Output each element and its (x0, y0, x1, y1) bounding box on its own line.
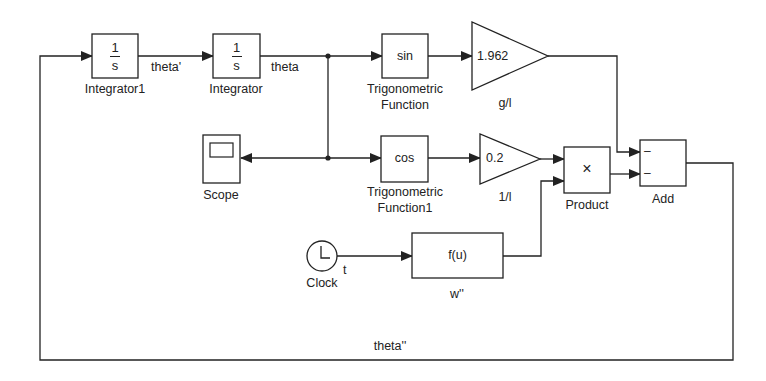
add-label: Add (633, 192, 693, 207)
fcn-label: w'' (427, 287, 487, 302)
trig-sin-label-line2: Function (355, 98, 455, 113)
signal-label-theta-double-prime: theta'' (360, 339, 420, 354)
signal-label-theta: theta (271, 60, 299, 75)
gain-g-over-l-value: 1.962 (477, 49, 508, 63)
signal-label-theta-prime: theta' (151, 60, 181, 75)
signal-gain1-out (548, 56, 640, 152)
gain-g-over-l-label: g/l (480, 96, 530, 111)
integrator-label: Integrator (191, 82, 281, 97)
integrator1-label: Integrator1 (70, 82, 160, 97)
product-multiply-icon: × (564, 162, 610, 176)
add-port2-sign: – (644, 166, 651, 180)
add-block[interactable]: – – (640, 140, 686, 186)
branch-point (325, 53, 330, 58)
trig-cos-label-line2: Function1 (355, 201, 455, 216)
gain-g-over-l-block[interactable]: 1.962 (472, 22, 548, 90)
fcn-block[interactable]: f(u) (412, 233, 503, 278)
clock-block[interactable] (307, 241, 337, 271)
gain-1-over-l-label: 1/l (485, 190, 525, 205)
branch-point (325, 155, 330, 160)
gain-1-over-l-block[interactable]: 0.2 (480, 134, 540, 184)
trig-cos-text: cos (381, 151, 428, 165)
integrator-transfer-function: 1 s (213, 41, 260, 73)
scope-block[interactable] (203, 135, 240, 183)
gain-1-over-l-value: 0.2 (486, 151, 503, 165)
integrator1-block[interactable]: 1 s (92, 34, 138, 78)
trig-cos-label-line1: Trigonometric (355, 185, 455, 200)
trig-cos-block[interactable]: cos (381, 136, 428, 182)
clock-icon (317, 246, 329, 258)
scope-icon (210, 143, 233, 157)
product-block[interactable]: × (564, 147, 610, 193)
product-label: Product (552, 198, 622, 213)
trig-sin-label-line1: Trigonometric (355, 82, 455, 97)
integrator-block[interactable]: 1 s (213, 34, 260, 78)
clock-label: Clock (292, 276, 352, 291)
integrator1-transfer-function: 1 s (92, 41, 138, 73)
fcn-expression: f(u) (412, 248, 503, 262)
add-port1-sign: – (644, 144, 651, 158)
trig-sin-block[interactable]: sin (382, 34, 428, 78)
scope-label: Scope (191, 188, 251, 203)
trig-sin-text: sin (382, 49, 428, 63)
